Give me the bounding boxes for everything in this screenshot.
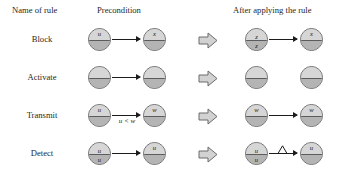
graph-node: u xyxy=(143,142,166,165)
graph-edge-arrow xyxy=(112,153,140,154)
graph-node xyxy=(300,66,323,89)
graph-node: x xyxy=(300,28,323,51)
graph-edge-arrow xyxy=(112,115,140,116)
node-label: w xyxy=(246,106,267,113)
node-divider xyxy=(89,40,110,41)
node-divider xyxy=(301,154,322,155)
node-divider xyxy=(144,116,165,117)
node-label: x xyxy=(144,30,165,37)
node-label: w xyxy=(144,106,165,113)
rule-name-label: Detect xyxy=(0,148,84,158)
graph-node: w xyxy=(245,104,268,127)
node-bottom-half xyxy=(89,40,110,51)
graph-edge-arrow xyxy=(112,77,140,78)
node-divider xyxy=(144,154,165,155)
graph-node xyxy=(143,66,166,89)
graph-node: x xyxy=(143,28,166,51)
node-bottom-half xyxy=(301,154,322,165)
block-arrow-right-icon xyxy=(198,70,218,87)
graph-node: u xyxy=(88,28,111,51)
graph-node xyxy=(245,66,268,89)
graph-edge-arrow xyxy=(269,115,297,116)
block-arrow-right-icon xyxy=(198,108,218,125)
node-label: x xyxy=(301,30,322,37)
node-divider xyxy=(89,78,110,79)
node-bottom-half xyxy=(301,78,322,89)
graph-edge-arrow xyxy=(112,39,140,40)
node-top-half xyxy=(301,67,322,78)
node-bottom-half xyxy=(301,40,322,51)
block-arrow-right-icon xyxy=(198,146,218,163)
node-bottom-half xyxy=(144,40,165,51)
column-header-postcondition: After applying the rule xyxy=(233,5,312,15)
table-row: Transmit u u < w w w xyxy=(0,98,341,136)
node-label-upper: u xyxy=(246,148,267,155)
node-divider xyxy=(301,40,322,41)
node-divider xyxy=(301,78,322,79)
rules-table-figure: Name of rule Precondition After applying… xyxy=(0,0,341,173)
block-arrow-right-icon xyxy=(198,32,218,49)
node-label-upper: z xyxy=(246,34,267,41)
graph-node: w xyxy=(143,104,166,127)
graph-node: u u xyxy=(245,142,268,165)
rule-name-label: Transmit xyxy=(0,110,84,120)
node-label-lower: z xyxy=(246,43,267,50)
graph-node: u xyxy=(300,142,323,165)
graph-node: z z xyxy=(245,28,268,51)
node-divider xyxy=(246,78,267,79)
table-row: Block u x z z xyxy=(0,22,341,60)
node-label-upper: u xyxy=(89,148,110,155)
node-divider xyxy=(144,78,165,79)
node-label: u xyxy=(144,144,165,151)
graph-node: u u xyxy=(88,142,111,165)
node-divider xyxy=(246,116,267,117)
graph-edge-arrow xyxy=(269,39,297,40)
edge-break-caret-icon xyxy=(277,145,288,154)
node-label: u xyxy=(89,30,110,37)
node-bottom-half xyxy=(89,78,110,89)
graph-node: w xyxy=(300,104,323,127)
rule-name-label: Activate xyxy=(0,72,84,82)
node-top-half xyxy=(246,67,267,78)
table-row: Detect u u u u u xyxy=(0,136,341,173)
node-divider xyxy=(301,116,322,117)
node-label-lower: u xyxy=(246,157,267,164)
table-row: Activate xyxy=(0,60,341,98)
node-bottom-half xyxy=(144,154,165,165)
node-label: u xyxy=(89,106,110,113)
rule-name-label: Block xyxy=(0,34,84,44)
node-bottom-half xyxy=(246,78,267,89)
node-label: w xyxy=(301,106,322,113)
table-header: Name of rule Precondition After applying… xyxy=(0,0,341,22)
node-bottom-half xyxy=(144,116,165,127)
node-bottom-half xyxy=(246,116,267,127)
node-bottom-half xyxy=(301,116,322,127)
column-header-precondition: Precondition xyxy=(97,5,141,15)
node-divider xyxy=(144,40,165,41)
node-top-half xyxy=(144,67,165,78)
node-label: u xyxy=(301,144,322,151)
graph-node xyxy=(88,66,111,89)
node-label-lower: u xyxy=(89,157,110,164)
node-bottom-half xyxy=(144,78,165,89)
column-header-name: Name of rule xyxy=(12,5,57,15)
node-top-half xyxy=(89,67,110,78)
